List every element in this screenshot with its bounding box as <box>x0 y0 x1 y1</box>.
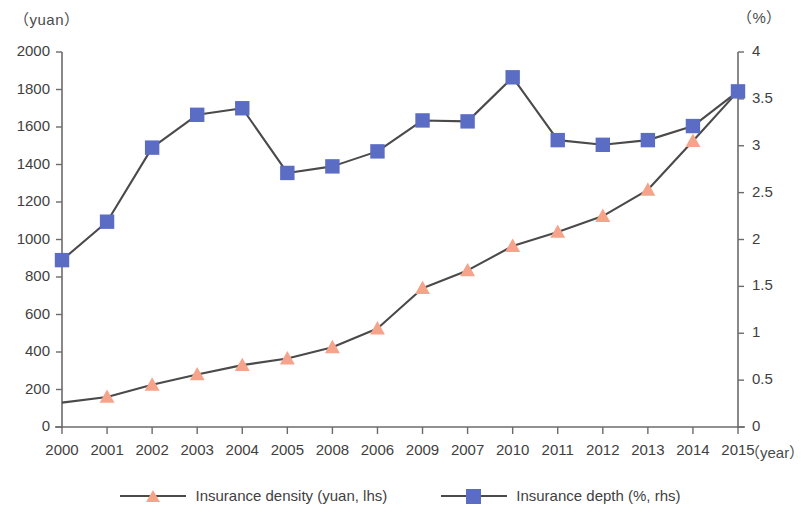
legend-label: Insurance depth (%, rhs) <box>516 487 680 504</box>
density-marker-2008 <box>325 340 340 353</box>
depth-marker-2011 <box>551 133 565 147</box>
plot-area <box>0 0 801 520</box>
depth-marker-2009 <box>415 113 429 127</box>
legend-label: Insurance density (yuan, lhs) <box>195 487 387 504</box>
depth-marker-2004 <box>235 101 249 115</box>
depth-line <box>62 77 738 260</box>
density-marker-2009 <box>415 281 430 294</box>
depth-marker-2012 <box>596 138 610 152</box>
density-marker-2012 <box>595 209 610 222</box>
legend-item-density: Insurance density (yuan, lhs) <box>120 487 387 504</box>
depth-marker-2000 <box>55 253 69 267</box>
depth-marker-2006 <box>370 144 384 158</box>
depth-marker-2008 <box>325 159 339 173</box>
insurance-chart: （yuan） （%） （year） 0200400600800100012001… <box>0 0 801 520</box>
legend-item-depth: Insurance depth (%, rhs) <box>441 487 680 504</box>
depth-marker-2015 <box>731 84 745 98</box>
legend-marker-triangle-icon <box>120 488 186 504</box>
density-marker-2007 <box>460 263 475 276</box>
legend-marker-square-icon <box>441 488 507 504</box>
density-line <box>62 91 738 402</box>
depth-marker-2013 <box>641 133 655 147</box>
depth-marker-2001 <box>100 214 114 228</box>
chart-legend: Insurance density (yuan, lhs)Insurance d… <box>0 487 801 504</box>
depth-marker-2007 <box>460 114 474 128</box>
depth-marker-2014 <box>686 119 700 133</box>
depth-marker-2010 <box>505 70 519 84</box>
depth-marker-2002 <box>145 140 159 154</box>
depth-marker-2003 <box>190 108 204 122</box>
depth-marker-2005 <box>280 166 294 180</box>
